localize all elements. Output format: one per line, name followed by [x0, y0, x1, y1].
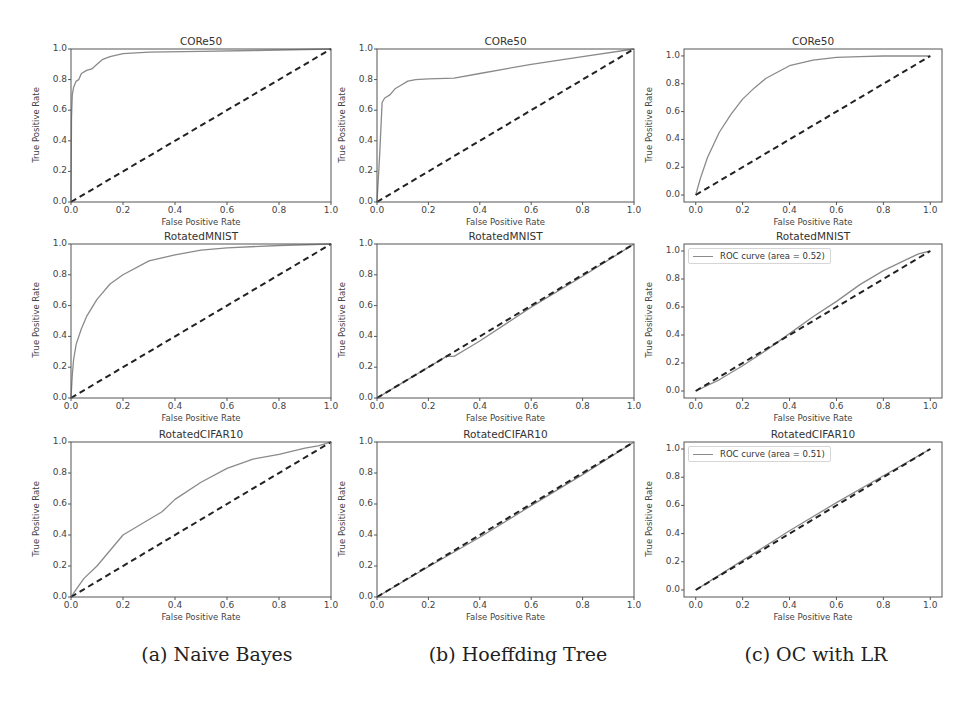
y-tick-label: 1.0	[660, 443, 680, 453]
legend-label: ROC curve (area = 0.51)	[720, 449, 825, 459]
x-tick-label: 0.0	[686, 600, 706, 610]
legend: ROC curve (area = 0.51)	[688, 446, 831, 462]
x-tick-label: 0.2	[733, 600, 753, 610]
x-tick-label: 0.4	[780, 600, 800, 610]
caption-oc-with-lr: (c) OC with LR	[666, 643, 966, 665]
y-axis-label: True Positive Rate	[644, 469, 654, 569]
y-tick-label: 0.0	[660, 584, 680, 594]
x-axis-label: False Positive Rate	[684, 612, 942, 622]
legend-line-swatch-icon	[693, 454, 713, 455]
y-tick-label: 0.6	[660, 499, 680, 509]
plot-title: RotatedCIFAR10	[684, 428, 942, 440]
x-tick-label: 1.0	[920, 600, 940, 610]
caption-hoeffding-tree: (b) Hoeffding Tree	[368, 643, 668, 665]
x-tick-label: 0.8	[873, 600, 893, 610]
caption-naive-bayes: (a) Naive Bayes	[67, 643, 367, 665]
y-tick-label: 0.2	[660, 556, 680, 566]
y-tick-label: 0.8	[660, 471, 680, 481]
y-tick-label: 0.4	[660, 528, 680, 538]
chance-diagonal-line	[696, 449, 931, 590]
x-tick-label: 0.6	[826, 600, 846, 610]
